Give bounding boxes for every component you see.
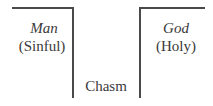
right-subtitle: (Holy): [145, 38, 207, 55]
left-title: Man: [18, 20, 70, 37]
right-cliff-wall: [139, 7, 141, 98]
left-cliff-wall: [72, 7, 74, 98]
left-subtitle: (Sinful): [14, 38, 70, 55]
chasm-label: Chasm: [78, 78, 134, 95]
right-cliff-top-edge: [139, 7, 205, 9]
right-title: God: [148, 20, 204, 37]
left-cliff-top-edge: [12, 7, 74, 9]
